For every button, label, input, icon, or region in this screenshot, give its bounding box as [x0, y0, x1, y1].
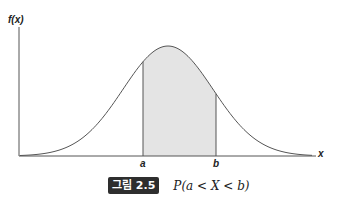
- density-plot: [0, 0, 339, 170]
- tick-label-a: a: [140, 158, 146, 169]
- caption-formula: P(a < X < b): [173, 179, 249, 193]
- figure-caption: 그림 2.5 P(a < X < b): [108, 177, 250, 194]
- x-axis-label: x: [318, 148, 324, 159]
- tick-label-b: b: [213, 158, 219, 169]
- y-axis-label: f(x): [8, 14, 24, 25]
- figure-number-badge: 그림 2.5: [108, 177, 159, 194]
- normal-density-figure: f(x) x a b: [0, 0, 339, 170]
- shaded-probability-region: [143, 46, 216, 156]
